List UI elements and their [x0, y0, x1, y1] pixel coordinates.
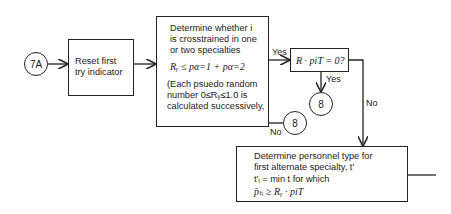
determine-crosstrained-box: Determine whether i is crosstrained in o… — [156, 16, 269, 127]
no-label-1: No — [366, 98, 378, 108]
personnel-type-box: Determine personnel type for first alter… — [236, 146, 408, 202]
connector-7a: 7A — [24, 52, 48, 76]
personnel-line-3: t′ᵢ = min t for which — [254, 174, 329, 185]
reset-line-2: try indicator — [75, 67, 123, 78]
decision-box: R · piT = 0? — [290, 48, 349, 72]
personnel-line-1: Determine personnel type for — [254, 151, 372, 162]
determine-line-1: Determine whether i — [170, 23, 252, 34]
yes-label-2: Yes — [326, 74, 341, 84]
determine-line-2: is crosstrained in one — [170, 34, 257, 45]
determine-note-2: number 0≤Rᵧ≤1.0 is — [167, 90, 247, 101]
no-label-2: No — [270, 127, 282, 137]
personnel-line-2: first alternate specialty, t′ — [254, 162, 354, 173]
yes-label-1: Yes — [272, 47, 287, 57]
reset-first-try-box: Reset first try indicator — [68, 39, 134, 96]
determine-note-1: (Each psuedo random — [167, 79, 257, 90]
decision-text: R · piT = 0? — [296, 55, 345, 66]
reset-line-1: Reset first — [75, 56, 116, 67]
determine-note-3: calculated successively, — [167, 101, 264, 112]
determine-formula: Rᵧ ≤ pα=1 + pα=2 — [170, 61, 245, 72]
connector-8-no: 8 — [283, 111, 307, 135]
determine-line-3: or two specialties — [170, 45, 240, 56]
personnel-line-4: p̄ₜᵢ ≥ Rᵧ · piT — [254, 186, 303, 197]
connector-8-yes: 8 — [309, 92, 333, 116]
